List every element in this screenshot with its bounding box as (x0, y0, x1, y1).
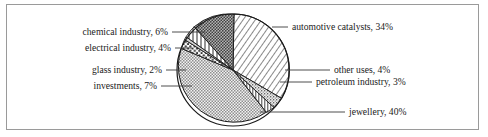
label-chemical-industry: chemical industry, 6% (83, 26, 168, 37)
label-electrical-industry: electrical industry, 4% (85, 42, 171, 53)
label-automotive-catalysts: automotive catalysts, 34% (292, 21, 393, 32)
pie-chart: chemical industry, 6% electrical industr… (0, 0, 488, 137)
label-petroleum-industry: petroleum industry, 3% (316, 76, 406, 87)
label-glass-industry: glass industry, 2% (92, 64, 162, 75)
figure-root: chemical industry, 6% electrical industr… (0, 0, 488, 137)
label-other-uses: other uses, 4% (334, 64, 390, 75)
label-jewellery: jewellery, 40% (348, 106, 406, 117)
pie-slices (177, 14, 290, 126)
label-investments: investments, 7% (94, 80, 157, 91)
